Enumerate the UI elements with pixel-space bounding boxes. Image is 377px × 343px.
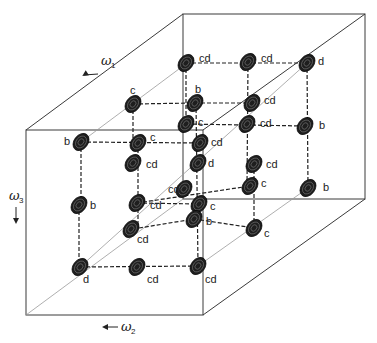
peak-label: d <box>83 273 89 285</box>
peak: b <box>183 207 212 231</box>
peak: cd <box>126 191 162 215</box>
peak-label: d <box>208 157 214 169</box>
w2-subscript: 2 <box>131 327 136 336</box>
peak: c <box>239 174 267 198</box>
connector-line <box>133 103 195 104</box>
connector-line <box>133 219 194 229</box>
peak-label: cd <box>146 158 158 170</box>
peak-contour-icon <box>122 151 145 175</box>
peak: b <box>184 83 207 115</box>
peak: cd <box>237 50 273 74</box>
peak: b <box>297 176 329 200</box>
peak: c <box>122 84 145 116</box>
peak: cd <box>236 112 272 136</box>
w1-arrow-icon <box>81 70 89 78</box>
w3-arrow-icon <box>13 218 19 224</box>
peak: b <box>294 114 325 138</box>
peak: cd <box>120 217 149 245</box>
peak-contour-icon <box>236 112 259 136</box>
peak-contour-icon <box>70 130 93 154</box>
peak-contour-icon <box>243 216 266 240</box>
edge-bottom-left <box>26 199 183 315</box>
peak-label: b <box>90 199 96 211</box>
peak-label: b <box>206 215 212 227</box>
peak-label: cd <box>264 94 276 106</box>
connector-line <box>137 203 199 204</box>
peak-label: cd <box>168 183 180 195</box>
peak-label: cd <box>199 52 211 64</box>
peak-label: cd <box>147 273 159 285</box>
peak-label: cd <box>211 136 223 148</box>
peak-contour-icon <box>294 114 317 138</box>
peak-label: c <box>130 84 136 96</box>
peak: c <box>127 131 156 155</box>
peak-contour-icon <box>68 193 91 217</box>
peak: c <box>175 112 204 136</box>
peak-contour-icon <box>187 151 210 175</box>
peak-label: c <box>210 200 216 212</box>
peak-contour-icon <box>189 131 212 155</box>
peak-contour-icon <box>126 255 149 279</box>
peak: d <box>296 51 324 75</box>
axis-w1: ω 1 <box>81 53 116 79</box>
peak-label: b <box>64 135 70 147</box>
peak-label: b <box>319 119 325 131</box>
peak: cd <box>126 255 159 285</box>
peak: b <box>64 130 92 154</box>
edge-bottom-right <box>203 199 365 315</box>
w2-arrow-icon <box>102 324 108 330</box>
edge-top-right <box>203 14 365 130</box>
peak-contour-icon <box>127 131 150 155</box>
peak: b <box>68 193 96 217</box>
peak-label: c <box>261 177 267 189</box>
peak-contour-icon <box>175 51 198 75</box>
peak-label: b <box>323 181 329 193</box>
peak-contour-icon <box>296 51 319 75</box>
peak: cd <box>243 152 278 176</box>
edge-top-left <box>26 14 183 130</box>
peak: c <box>243 216 270 240</box>
peak: cd <box>189 131 223 155</box>
peak-label: c <box>198 116 204 128</box>
peak-label: c <box>150 131 156 143</box>
nmr-cube-diagram: ccdcddbcdccdbbccdcddcdbcdcdcbcdcbcdcdcd … <box>0 0 377 343</box>
peak-label: cd <box>266 158 278 170</box>
peak: cd <box>241 91 276 115</box>
peak-label: cd <box>150 199 162 211</box>
peak-contour-icon <box>175 112 198 136</box>
peak: cd <box>168 177 195 201</box>
peak-label: cd <box>137 233 149 245</box>
axis-w3: ω 3 <box>9 188 24 224</box>
peak: cd <box>187 254 217 285</box>
peak-label: c <box>264 227 270 239</box>
peak-label: d <box>318 55 324 67</box>
peak-contour-icon <box>241 91 264 115</box>
front-face <box>26 130 203 315</box>
peak: d <box>187 151 214 175</box>
back-face <box>183 14 365 199</box>
w1-subscript: 1 <box>111 61 116 70</box>
w3-subscript: 3 <box>19 196 24 205</box>
peaks: ccdcddbcdccdbbccdcddcdbcdcdcbcdcbcdcdcd <box>64 50 329 285</box>
peak-label: cd <box>205 273 217 285</box>
peak-contour-icon <box>126 191 149 215</box>
peak-contour-icon <box>243 152 266 176</box>
axis-w2: ω 2 <box>102 319 136 336</box>
peak-label: cd <box>261 52 273 64</box>
peak-contour-icon <box>237 50 260 74</box>
peak-contour-icon <box>239 174 262 198</box>
peak-label: cd <box>260 117 272 129</box>
peak-label: b <box>195 83 201 95</box>
peak: cd <box>175 51 211 75</box>
peak-contour-icon <box>297 176 320 200</box>
peak: cd <box>122 151 158 175</box>
